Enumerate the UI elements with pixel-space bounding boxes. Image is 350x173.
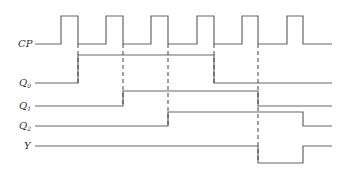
timing-diagram: CP Q0 Q1 Q2 Y [0,0,350,173]
waveform-q2 [35,112,332,126]
waveform-y [35,146,332,163]
label-cp: CP [18,38,33,49]
label-y: Y [24,140,32,151]
label-q1: Q1 [19,100,31,112]
waveform-cp [35,16,332,44]
waveform-q1 [35,91,332,106]
waveform-q0 [35,55,332,83]
label-q0: Q0 [19,77,31,89]
label-q2: Q2 [19,120,31,132]
